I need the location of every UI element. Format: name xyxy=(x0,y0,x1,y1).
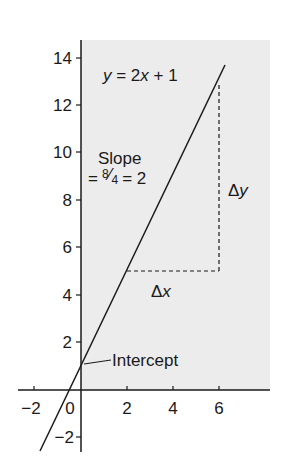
shaded-region xyxy=(81,40,270,390)
y-tick-label: −2 xyxy=(55,428,74,447)
line-chart: −2 0 2 4 6 −2 2 4 6 8 10 12 14 y = 2x + … xyxy=(0,0,294,468)
delta-x-label: Δx xyxy=(151,282,171,301)
y-tick-label: 14 xyxy=(53,49,72,68)
y-tick-label: 8 xyxy=(63,191,72,210)
slope-label: Slope xyxy=(98,149,141,168)
y-tick-label: 10 xyxy=(53,143,72,162)
x-tick-label: 0 xyxy=(65,399,74,418)
y-tick-label: 4 xyxy=(63,286,72,305)
y-tick-label: 2 xyxy=(63,333,72,352)
equation-label: y = 2x + 1 xyxy=(102,66,178,85)
x-tick-label: −2 xyxy=(21,399,40,418)
x-tick-label: 2 xyxy=(122,399,131,418)
x-tick-labels: −2 0 2 4 6 xyxy=(21,399,223,418)
y-tick-label: 6 xyxy=(63,238,72,257)
intercept-label: Intercept xyxy=(112,351,178,370)
delta-y-label: Δy xyxy=(228,181,249,200)
y-tick-label: 12 xyxy=(53,96,72,115)
x-tick-label: 6 xyxy=(214,399,223,418)
x-tick-label: 4 xyxy=(168,399,177,418)
